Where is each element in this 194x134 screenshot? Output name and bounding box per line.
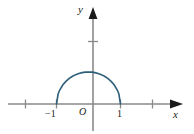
math-figure-semicircle: y x O −1 1 (0, 0, 194, 134)
x-axis-label: x (173, 109, 178, 120)
y-axis-arrowhead (89, 7, 98, 19)
x-tick-label-pos-one: 1 (117, 109, 122, 119)
plot-canvas (0, 0, 194, 134)
semicircle-curve (57, 72, 121, 104)
y-axis-label: y (78, 4, 83, 15)
origin-label: O (79, 107, 86, 117)
x-tick-label-neg-one: −1 (45, 109, 56, 119)
